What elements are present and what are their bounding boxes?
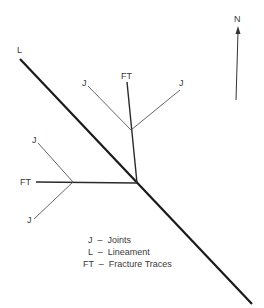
legend-lineament: L – Lineament [83,246,172,258]
label-j-top-right: J [179,78,184,88]
legend-fracture-traces: FT – Fracture Traces [83,258,172,270]
north-arrow-icon [236,26,241,34]
fracture-trace-left [36,182,137,183]
joint-upper-right [131,90,180,130]
label-j-left-upper: J [32,135,37,145]
north-arrow-shaft [236,32,238,100]
label-j-top-left: J [82,78,87,88]
label-lineament: L [17,45,22,55]
label-north: N [234,14,241,24]
legend: J – Joints L – Lineament FT – Fracture T… [83,234,172,270]
label-ft-top: FT [121,71,132,81]
joint-left-lower [34,182,73,219]
legend-joints: J – Joints [83,234,172,246]
fracture-trace-upper [127,82,137,183]
label-ft-left: FT [20,177,31,187]
label-j-left-lower: J [27,215,32,225]
joint-upper-left [88,86,131,130]
joint-left-upper [38,143,73,182]
